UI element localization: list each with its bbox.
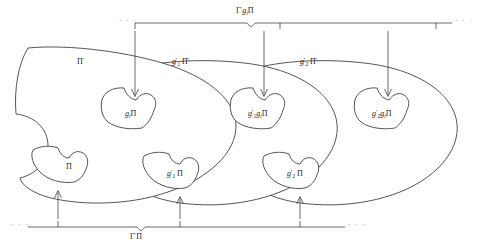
top-bracket-label-prime: ′: [240, 5, 242, 13]
lower-blob-3-prefix-sub: 2: [293, 173, 296, 179]
top-bracket-leading-dots: · · ·: [119, 17, 138, 25]
lower-blob-2-prefix-sub: 1: [173, 173, 176, 179]
lower-blob-3-label: g′2 Π: [287, 170, 303, 178]
region-3-label-prime: ′: [315, 56, 317, 64]
upper-blob-1-prefix-sub: i: [129, 113, 131, 119]
region-3-label-prefix-prime: ′: [304, 56, 306, 64]
top-bracket-notch: [246, 23, 256, 27]
region-2-label: g′1 Π′: [172, 58, 189, 66]
lower-blob-2-pi: Π: [177, 169, 183, 178]
lower-blob-2-prefix-prime: ′: [171, 168, 173, 176]
bottom-bracket-trailing-dots: · · ·: [348, 221, 367, 229]
upper-blob-2-prefix-prime: ′: [252, 108, 254, 116]
region-3-label-prefix-sub: 2: [306, 61, 309, 67]
bottom-bracket-notch: [136, 227, 146, 231]
lower-blob-2-label: g′1 Π: [167, 170, 183, 178]
upper-blob-3-prefix-sub: 2: [378, 113, 381, 119]
upper-blob-2-second-sub: i: [260, 113, 262, 119]
top-bracket-label-pi: Π: [248, 6, 254, 15]
region-3-label: g′2 Π′: [300, 58, 317, 66]
bottom-bracket-label-prime: ′: [134, 231, 136, 239]
upper-blob-3-prefix-prime: ′: [376, 108, 378, 116]
lower-blob-3-prefix-prime: ′: [291, 168, 293, 176]
upper-blob-1-label: giΠ: [125, 110, 136, 118]
bottom-bracket-label-pi: Π: [136, 232, 142, 241]
diagram-svg: [0, 0, 480, 248]
upper-blob-2-prefix-sub: 1: [254, 113, 257, 119]
region-2-label-prime: ′: [187, 56, 189, 64]
lower-blob-1-pi: Π: [66, 162, 72, 171]
upper-blob-3-second-sub: i: [384, 113, 386, 119]
region-1-label-prime: ′: [82, 56, 84, 64]
top-bracket-label: Γ′giΠ: [236, 7, 253, 15]
upper-blob-3-pi: Π: [386, 109, 392, 118]
lower-blob-3-pi: Π: [297, 169, 303, 178]
upper-blob-1-pi: Π: [131, 109, 137, 118]
region-2-label-prefix-prime: ′: [176, 56, 178, 64]
lower-blob-1-label: Π: [66, 163, 72, 171]
top-bracket-label-g-sub: i: [246, 10, 248, 16]
region-1-label: Π′: [77, 58, 84, 66]
bottom-bracket-leading-dots: · · ·: [11, 221, 30, 229]
upper-blob-2-pi: Π: [262, 109, 268, 118]
top-bracket-trailing-dots: · · ·: [455, 17, 474, 25]
upper-blob-2-label: g′1giΠ: [248, 110, 268, 118]
bottom-bracket-label: Γ′Π: [130, 233, 142, 241]
region-2-label-prefix-sub: 1: [178, 61, 181, 67]
figure-canvas: · · · · · · Γ′giΠ Π′ g′1 Π′ g′2 Π′ giΠ g…: [0, 0, 480, 248]
upper-blob-3-label: g′2giΠ: [372, 110, 392, 118]
